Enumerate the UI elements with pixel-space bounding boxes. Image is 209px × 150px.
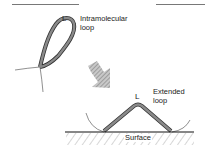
transition-arrow-icon	[88, 61, 110, 88]
surface-label: Surface	[124, 134, 152, 142]
extended-loop-tail-left	[86, 113, 104, 132]
loop-top-label: Intramolecular loop	[80, 15, 128, 32]
loop-bottom-label: Extended loop	[153, 88, 185, 105]
loop-top-label-line2: loop	[80, 24, 128, 33]
extended-loop	[104, 105, 171, 132]
intramolecular-loop	[15, 18, 74, 92]
loop-bottom-label-line2: loop	[153, 97, 185, 106]
loop-bottom-letter: L	[135, 93, 139, 101]
loop-top-letter: L	[62, 15, 66, 23]
extended-loop-tail-right	[172, 120, 190, 132]
